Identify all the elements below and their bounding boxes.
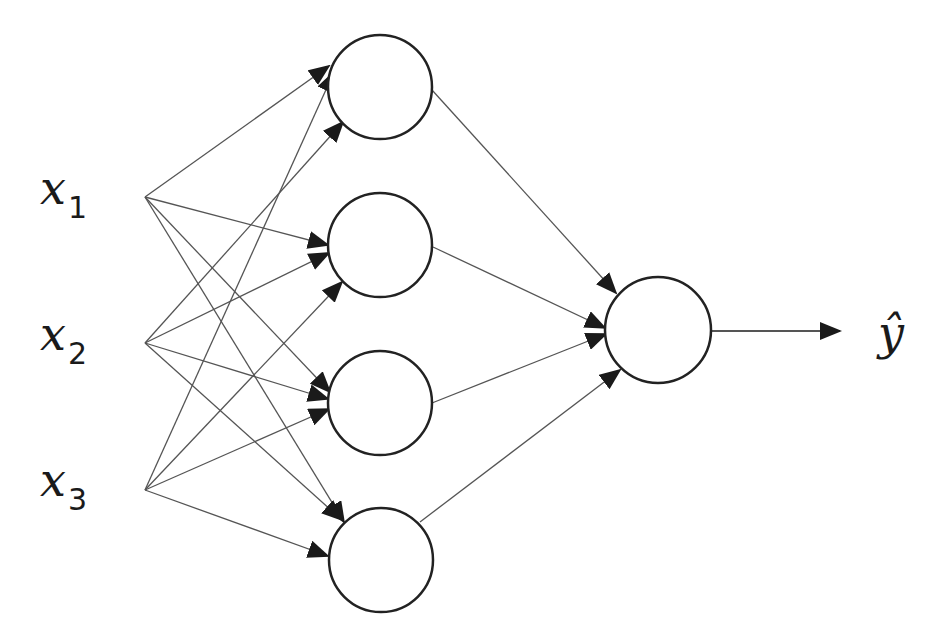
hidden-node-3	[328, 351, 432, 455]
hidden-node-1	[328, 35, 432, 139]
network-diagram	[0, 0, 949, 642]
input-label-x2: x2	[40, 311, 87, 369]
output-label-yhat: ŷ	[878, 310, 904, 356]
output-node	[605, 277, 711, 383]
hidden-node-4	[329, 508, 433, 612]
input-label-x3: x3	[40, 457, 87, 515]
hidden-node-2	[328, 193, 432, 297]
input-edges	[145, 66, 344, 556]
input-label-x1: x1	[40, 165, 87, 223]
